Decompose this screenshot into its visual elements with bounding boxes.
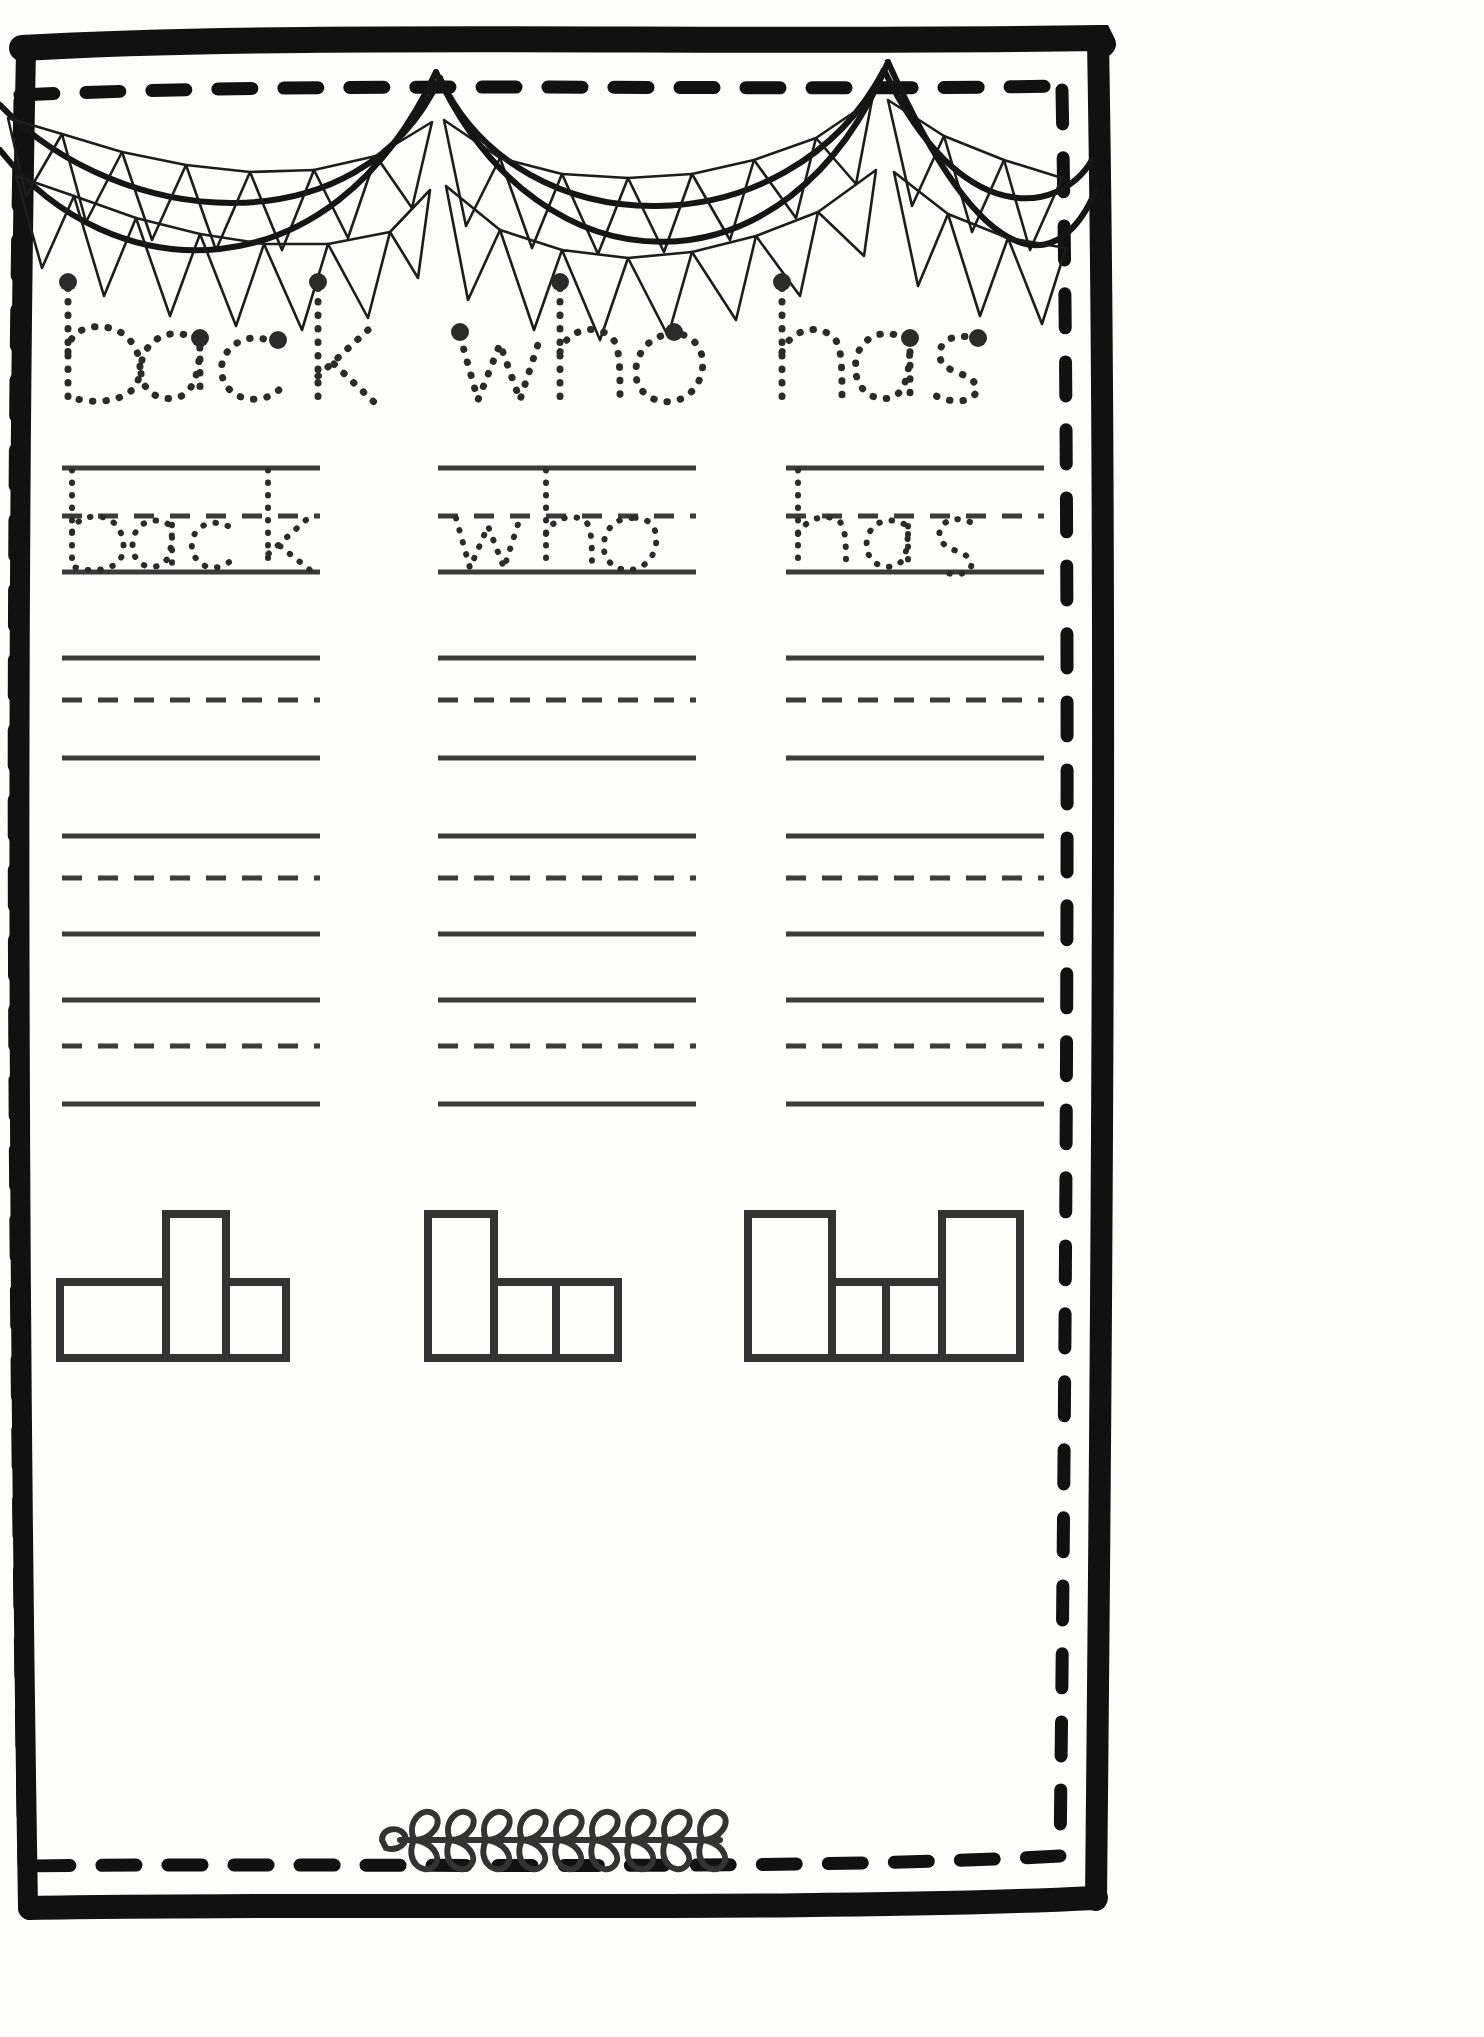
practice-row-traced bbox=[62, 468, 1044, 574]
practice-row-3 bbox=[62, 836, 1044, 934]
title-text-layer: back who has bbox=[0, 262, 1484, 422]
word-shape-boxes bbox=[60, 1214, 1020, 1358]
word-shape-group-has bbox=[748, 1214, 1020, 1358]
traced-word-back bbox=[72, 470, 310, 570]
worksheet-page: .dot { fill:none; stroke:#2b2b2b; stroke… bbox=[0, 0, 1484, 2037]
word-shape-group-who bbox=[428, 1214, 618, 1358]
practice-row-2 bbox=[62, 658, 1044, 758]
traced-word-who bbox=[456, 470, 656, 570]
word-shape-group-back bbox=[60, 1214, 286, 1358]
practice-row-4 bbox=[62, 1000, 1044, 1104]
practice-rows-blank bbox=[62, 658, 1044, 1104]
traced-word-has bbox=[798, 470, 971, 574]
